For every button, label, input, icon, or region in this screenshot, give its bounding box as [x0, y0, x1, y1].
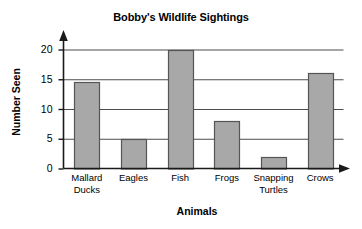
category-label-line: Ducks [64, 184, 111, 196]
axes [59, 30, 350, 173]
x-axis-category-label: Fish [157, 172, 204, 184]
plot-area [0, 0, 362, 229]
y-axis-tick-label: 5 [29, 133, 53, 144]
bar [262, 158, 287, 170]
x-axis-category-label: Crows [297, 172, 344, 184]
category-label-line: Fish [157, 172, 204, 184]
category-label-line: Turtles [250, 184, 297, 196]
category-label-line: Crows [297, 172, 344, 184]
x-axis-label: Animals [62, 205, 332, 217]
bar-chart: Bobby's Wildlife Sightings Number Seen 0… [0, 0, 362, 229]
category-label-line: Frogs [204, 172, 251, 184]
x-axis-category-label: MallardDucks [64, 172, 111, 196]
y-axis-tick-label: 15 [29, 74, 53, 85]
x-axis-category-label: Eagles [110, 172, 157, 184]
x-axis-category-label: SnappingTurtles [250, 172, 297, 196]
gridlines [64, 50, 344, 139]
category-label-line: Eagles [110, 172, 157, 184]
bar [215, 122, 240, 170]
y-axis-tick-label: 10 [29, 104, 53, 115]
category-label-line: Snapping [250, 172, 297, 184]
bar [75, 83, 100, 170]
bar [122, 140, 147, 170]
y-axis-arrow-icon [59, 30, 68, 41]
bar [309, 74, 334, 170]
x-axis-category-label: Frogs [204, 172, 251, 184]
category-label-line: Mallard [64, 172, 111, 184]
bar [169, 51, 194, 170]
y-axis-tick-label: 0 [29, 163, 53, 174]
y-axis-tick-label: 20 [29, 44, 53, 55]
